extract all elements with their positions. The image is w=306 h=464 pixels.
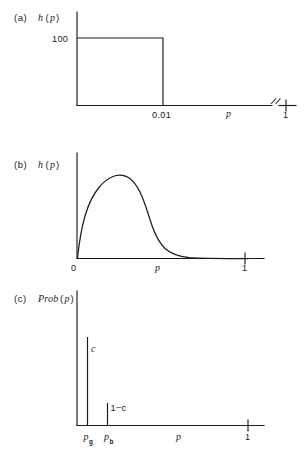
panel-b-density-curve: [78, 175, 249, 258]
panel-c: (c) Prob ( p ) c 1−c p g p b 1 p: [14, 291, 264, 446]
figure-root: (a) h ( p ) 100 0.01 1 p (b): [0, 0, 306, 464]
panel-c-x-tick-label-pg: p g: [83, 431, 94, 446]
panel-a-tag: (a): [14, 12, 27, 23]
panel-c-x-tick-label-1: 1: [245, 432, 250, 442]
panel-c-ylabel-main: Prob: [37, 293, 58, 304]
three-panel-probability-figure: (a) h ( p ) 100 0.01 1 p (b): [0, 0, 306, 464]
panel-b-tag: (b): [14, 159, 27, 170]
panel-c-x-tick-label-pb: p b: [103, 431, 114, 445]
panel-c-label-group: (c) Prob ( p ): [14, 293, 74, 304]
panel-a-ylabel-main: h: [38, 12, 43, 23]
panel-a-x-axis-label: p: [225, 108, 231, 119]
panel-a-x-tick-label-001: 0.01: [152, 110, 171, 120]
panel-a-density-box: [77, 38, 163, 106]
panel-c-spike-pb-label: 1−c: [111, 403, 127, 413]
panel-b-label-group: (b) h ( p ): [14, 159, 60, 170]
panel-c-ylabel-paren-close: ): [71, 293, 75, 304]
panel-a-ylabel-paren-open: (: [46, 12, 50, 23]
panel-a-y-tick-label-100: 100: [52, 34, 68, 44]
panel-b-x-tick-label-1: 1: [242, 263, 247, 273]
panel-c-x-axis-label: p: [175, 431, 181, 442]
panel-c-x-tick-pg-base: p: [83, 431, 89, 442]
panel-a-x-tick-label-1: 1: [283, 110, 288, 120]
panel-c-x-tick-pg-sub: g: [89, 438, 93, 446]
panel-b-ylabel-paren-open: (: [46, 159, 50, 170]
panel-a-ylabel-var: p: [49, 12, 55, 23]
panel-b-ylabel-paren-close: ): [56, 159, 60, 170]
panel-c-ylabel-paren-open: (: [60, 293, 64, 304]
panel-b-ylabel-main: h: [38, 159, 43, 170]
panel-a-label-group: (a) h ( p ): [14, 12, 60, 23]
panel-a-ylabel-paren-close: ): [56, 12, 60, 23]
panel-c-x-tick-pb-sub: b: [110, 438, 114, 445]
panel-b: (b) h ( p ) 0 1 p: [14, 153, 264, 273]
panel-c-ylabel-var: p: [64, 293, 70, 304]
panel-b-x-axis-label: p: [154, 262, 160, 273]
panel-a: (a) h ( p ) 100 0.01 1 p: [14, 12, 296, 120]
panel-b-x-tick-label-0: 0: [71, 263, 76, 273]
axis-break-icon: [271, 99, 281, 105]
panel-c-spike-pg-label: c: [91, 343, 96, 354]
panel-c-tag: (c): [14, 293, 27, 304]
panel-c-x-tick-pb-base: p: [103, 431, 109, 442]
panel-b-ylabel-var: p: [49, 159, 55, 170]
